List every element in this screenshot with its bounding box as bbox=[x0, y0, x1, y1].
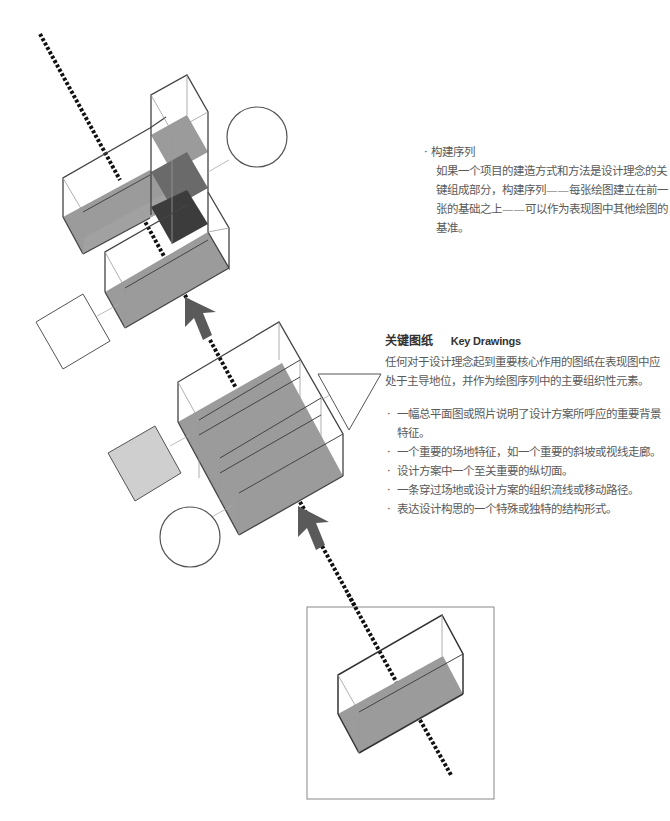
circle-symbol-top bbox=[208, 107, 287, 172]
key-drawings-intro: 任何对于设计理念起到重要核心作用的图纸在表现图中应处于主导地位，并作为绘图序列中… bbox=[385, 353, 668, 391]
sequence-body: 如果一个项目的建造方式和方法是设计理念的关键组成部分，构建序列——每张绘图建立在… bbox=[424, 162, 670, 238]
center-cube-volume bbox=[178, 322, 343, 535]
key-drawings-list: 一幅总平面图或照片说明了设计方案所呼应的重要背景特征。 一个重要的场地特征，如一… bbox=[385, 405, 668, 519]
arrow-up-2 bbox=[298, 506, 329, 550]
key-drawings-title-cn: 关键图纸 bbox=[385, 334, 433, 348]
list-item: 一个重要的场地特征，如一个重要的斜坡或视线走廊。 bbox=[385, 443, 668, 462]
arrow-up-1 bbox=[185, 297, 216, 340]
list-item: 一幅总平面图或照片说明了设计方案所呼应的重要背景特征。 bbox=[385, 405, 668, 443]
framed-single-volume bbox=[307, 594, 494, 799]
construction-sequence-note: · 构建序列 如果一个项目的建造方式和方法是设计理念的关键组成部分，构建序列——… bbox=[424, 143, 670, 238]
key-drawings-title-en: Key Drawings bbox=[451, 335, 521, 347]
sequence-title: · 构建序列 bbox=[424, 143, 670, 162]
list-item: 设计方案中一个至关重要的纵切面。 bbox=[385, 462, 668, 481]
square-symbol-left-top bbox=[36, 294, 119, 369]
key-drawings-section: 关键图纸 Key Drawings 任何对于设计理念起到重要核心作用的图纸在表现… bbox=[385, 332, 668, 519]
list-item: 一条穿过场地或设计方案的组织流线或移动路径。 bbox=[385, 481, 668, 500]
triangle-symbol bbox=[318, 374, 381, 430]
circle-symbol-bottom bbox=[160, 505, 233, 567]
key-drawings-heading: 关键图纸 Key Drawings bbox=[385, 332, 668, 351]
list-item: 表达设计构思的一个特殊或独特的结构形式。 bbox=[385, 500, 668, 519]
top-composite-volumes bbox=[63, 75, 229, 328]
gray-square-symbol bbox=[108, 426, 190, 501]
